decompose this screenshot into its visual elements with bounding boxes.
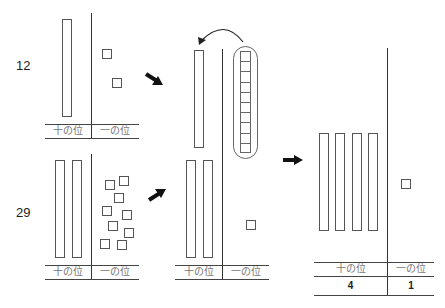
ones-cube [401, 179, 411, 189]
ones-place-label: 一の位 [388, 263, 434, 275]
place-divider [387, 48, 388, 296]
tens-rod [352, 133, 362, 231]
tens-rod [368, 133, 378, 231]
tens-rod [335, 133, 345, 231]
table-bottom-line [314, 295, 434, 296]
table-mid-line [314, 276, 434, 277]
tens-digit: 4 [314, 280, 387, 292]
ones-digit: 1 [388, 280, 434, 292]
tens-rod [319, 133, 329, 231]
tens-place-label: 十の位 [314, 263, 387, 275]
